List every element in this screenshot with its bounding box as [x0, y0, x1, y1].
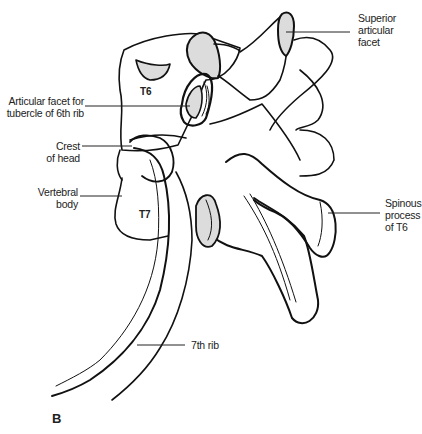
tubercle-facet	[186, 86, 202, 118]
vertebra-label-t6: T6	[140, 86, 152, 97]
t6-vertebral-body	[119, 34, 240, 151]
label-seventh-rib: 7th rib	[191, 339, 219, 351]
panel-label: B	[52, 411, 61, 426]
vertebra-label-t7: T7	[139, 209, 151, 220]
label-vertebral-body: Vertebral body	[20, 186, 78, 210]
seventh-rib-inner	[112, 172, 192, 400]
transverse-process	[270, 38, 333, 130]
inferior-processes	[296, 70, 334, 176]
pedicle-outline	[210, 104, 300, 160]
t6-superior-notch	[136, 60, 170, 80]
t7-lamina-spine	[212, 198, 318, 323]
lamina-outline	[214, 14, 287, 100]
label-spinous-process: Spinous process of T6	[385, 197, 422, 233]
label-articular-facet-tubercle: Articular facet for tubercle of 6th rib	[0, 95, 84, 119]
label-crest-of-head: Crest of head	[20, 140, 80, 164]
label-superior-articular-facet: Superior articular facet	[358, 12, 396, 48]
superior-articular-facet	[278, 13, 294, 57]
intervertebral-disc	[117, 135, 186, 180]
rib-head	[130, 135, 174, 181]
